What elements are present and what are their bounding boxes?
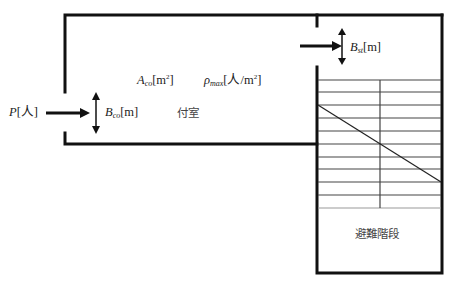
- corridor-area-label: Aco[m2]: [137, 70, 174, 91]
- stair-inflow-arrow-icon: [300, 41, 342, 51]
- people-inflow-label: P[人]: [9, 105, 38, 119]
- max-density-label: ρmax[人/m2]: [204, 70, 261, 91]
- stair-door-width-label: Bst[m]: [350, 40, 381, 58]
- evacuation-stair-label: 避難階段: [355, 227, 399, 241]
- corridor-door-width-arrow-icon: [92, 92, 100, 134]
- corridor-door-width-label: Bco[m]: [105, 105, 138, 123]
- inflow-arrow-icon: [46, 108, 90, 118]
- antechamber-wall-bottom-left: [65, 133, 317, 144]
- antechamber-label: 付室: [177, 106, 199, 120]
- stair-treads: [318, 80, 441, 208]
